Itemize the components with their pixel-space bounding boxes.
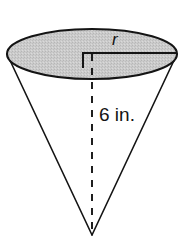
cone-diagram-canvas: r 6 in. — [0, 0, 188, 246]
height-label: 6 in. — [99, 104, 135, 125]
cone-figure: r 6 in. — [0, 0, 188, 246]
